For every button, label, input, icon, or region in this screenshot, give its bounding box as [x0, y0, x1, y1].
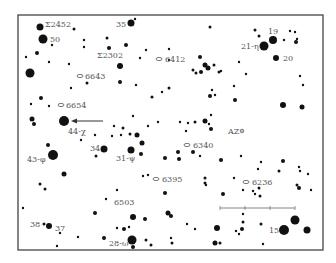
star: [199, 155, 201, 157]
star: [128, 236, 137, 245]
star: [145, 239, 148, 242]
star: [187, 122, 189, 124]
star: [279, 225, 289, 235]
star: [150, 244, 153, 247]
star-label: 6340: [193, 141, 213, 150]
arrowhead-icon: [71, 119, 77, 124]
star: [30, 103, 32, 105]
star: [163, 156, 167, 160]
star: [204, 177, 207, 180]
star: [102, 236, 106, 240]
star: [209, 127, 213, 131]
star: [242, 189, 244, 191]
star: [240, 227, 244, 231]
star: [296, 184, 299, 187]
star: [122, 127, 125, 130]
star: [26, 69, 35, 78]
star-label: Σ2302: [97, 51, 123, 60]
star: [128, 20, 135, 27]
star: [77, 236, 79, 238]
star: [168, 87, 171, 90]
star: [56, 245, 58, 247]
star: [134, 18, 136, 20]
star: [44, 188, 47, 191]
star: [198, 55, 202, 59]
star: [281, 159, 285, 163]
star-label: 34: [90, 144, 100, 153]
star: [208, 94, 212, 98]
star: [291, 216, 300, 225]
star: [48, 150, 58, 160]
star: [310, 189, 312, 191]
star: [213, 64, 216, 67]
star: [195, 72, 198, 75]
star: [199, 70, 203, 74]
star: [86, 82, 89, 85]
star: [101, 146, 108, 153]
star: [80, 139, 82, 141]
star: [43, 223, 46, 226]
star: [240, 155, 242, 157]
star: [143, 217, 147, 221]
star: [46, 223, 52, 229]
star: [113, 125, 115, 127]
star: [214, 94, 216, 96]
star: [118, 80, 122, 84]
star: [307, 173, 309, 175]
star-label: 28-ω: [109, 239, 129, 248]
star: [142, 175, 144, 177]
star: [278, 170, 281, 173]
star: [105, 198, 107, 200]
star: [147, 174, 149, 176]
star: [124, 43, 128, 47]
star: [245, 73, 247, 75]
star: [260, 42, 269, 51]
star-label: 19: [268, 27, 278, 36]
star: [186, 223, 188, 225]
star: [283, 39, 285, 41]
star: [299, 75, 301, 77]
star: [130, 214, 136, 220]
star: [120, 134, 122, 136]
star: [122, 227, 126, 231]
star-label: Σ2452: [45, 20, 71, 29]
star: [260, 223, 263, 226]
star: [39, 96, 43, 100]
star: [95, 155, 98, 158]
star: [191, 150, 195, 154]
star: [259, 195, 262, 198]
star: [73, 28, 76, 31]
star: [140, 141, 145, 146]
star: [39, 183, 42, 186]
star: [194, 228, 196, 230]
star: [83, 46, 85, 48]
star: [176, 150, 180, 154]
star-label: 6236: [252, 178, 272, 187]
nebula-icon: [184, 143, 190, 146]
star-label: 44-χ: [68, 127, 86, 136]
nebula-icon: [58, 103, 64, 106]
star: [93, 211, 97, 215]
star: [302, 84, 304, 86]
star-label: 6643: [85, 72, 105, 81]
star: [235, 230, 237, 232]
nebula-icon: [243, 180, 249, 183]
star: [131, 245, 135, 249]
star: [262, 243, 264, 245]
star: [169, 214, 173, 218]
star: [203, 119, 208, 124]
star: [185, 130, 187, 132]
star: [145, 49, 147, 51]
star: [220, 70, 222, 72]
star: [254, 193, 256, 195]
star: [135, 133, 140, 138]
star: [210, 114, 212, 116]
star: [209, 26, 212, 29]
star: [32, 122, 36, 126]
star: [233, 85, 235, 87]
star: [39, 35, 48, 44]
star: [280, 102, 286, 108]
star: [163, 191, 167, 195]
star: [35, 51, 39, 55]
star: [179, 121, 181, 123]
